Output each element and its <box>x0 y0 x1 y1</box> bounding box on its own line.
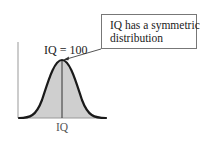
x-axis-label: IQ <box>56 121 68 133</box>
peak-label: IQ = 100 <box>44 44 87 56</box>
arrowhead-icon <box>63 57 69 61</box>
callout-box: IQ has a symmetric distribution <box>101 14 197 49</box>
callout-text-line-2: distribution <box>110 32 196 45</box>
callout-text-line-1: IQ has a symmetric <box>110 19 196 32</box>
